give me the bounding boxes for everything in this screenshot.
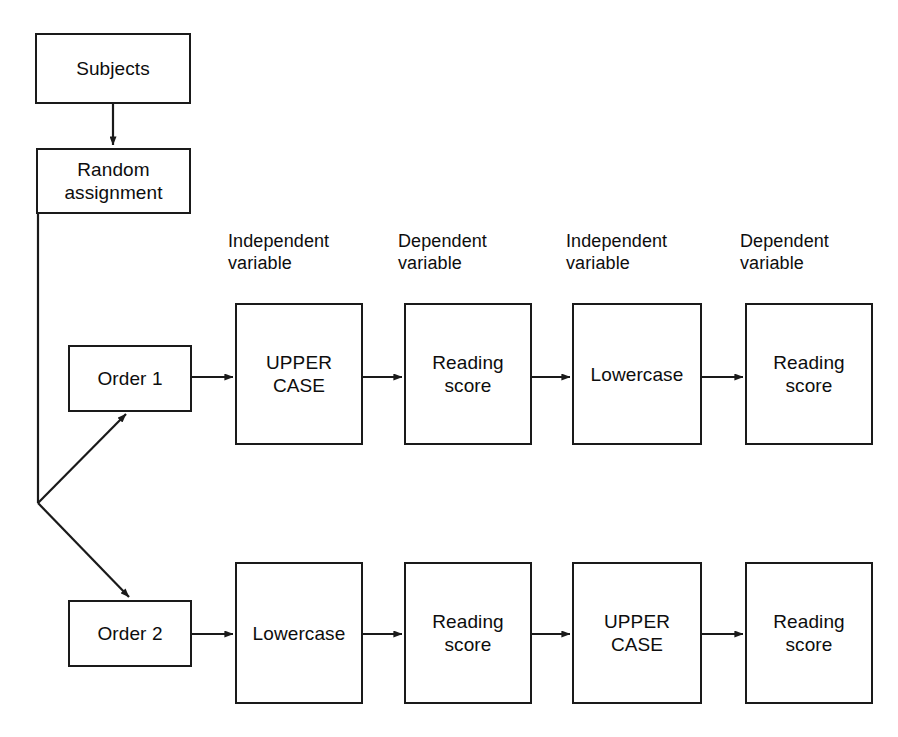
node-row1-dv1-label: Reading score (432, 351, 503, 397)
column-header-dependent-variable-1: Dependent variable (398, 230, 558, 274)
node-row1-dependent-variable-2[interactable]: Reading score (745, 303, 873, 445)
node-order-1-label: Order 1 (97, 367, 162, 390)
column-header-independent-variable-2: Independent variable (566, 230, 726, 274)
connector-branch-to-order1 (38, 414, 126, 503)
node-row2-independent-variable-2[interactable]: UPPER CASE (572, 562, 702, 704)
node-random-assignment[interactable]: Random assignment (36, 148, 191, 214)
flowchart-diagram: Independent variable Dependent variable … (0, 0, 898, 737)
node-order-1[interactable]: Order 1 (68, 345, 192, 412)
node-row1-iv2-label: Lowercase (591, 363, 684, 386)
node-order-2[interactable]: Order 2 (68, 600, 192, 667)
node-row2-dv2-label: Reading score (773, 610, 844, 656)
node-row1-iv1-label: UPPER CASE (266, 351, 332, 397)
node-row2-dv1-label: Reading score (432, 610, 503, 656)
connector-branch-to-order2 (38, 503, 129, 597)
node-row2-iv1-label: Lowercase (253, 622, 346, 645)
node-row1-dependent-variable-1[interactable]: Reading score (404, 303, 532, 445)
column-header-dependent-variable-2: Dependent variable (740, 230, 898, 274)
node-row2-iv2-label: UPPER CASE (604, 610, 670, 656)
node-row2-dependent-variable-2[interactable]: Reading score (745, 562, 873, 704)
node-row1-independent-variable-2[interactable]: Lowercase (572, 303, 702, 445)
node-order-2-label: Order 2 (97, 622, 162, 645)
node-row1-dv2-label: Reading score (773, 351, 844, 397)
node-row2-dependent-variable-1[interactable]: Reading score (404, 562, 532, 704)
node-subjects-label: Subjects (76, 57, 150, 80)
node-random-assignment-label: Random assignment (64, 158, 162, 204)
node-subjects[interactable]: Subjects (35, 33, 191, 104)
column-header-independent-variable-1: Independent variable (228, 230, 388, 274)
node-row1-independent-variable-1[interactable]: UPPER CASE (235, 303, 363, 445)
node-row2-independent-variable-1[interactable]: Lowercase (235, 562, 363, 704)
